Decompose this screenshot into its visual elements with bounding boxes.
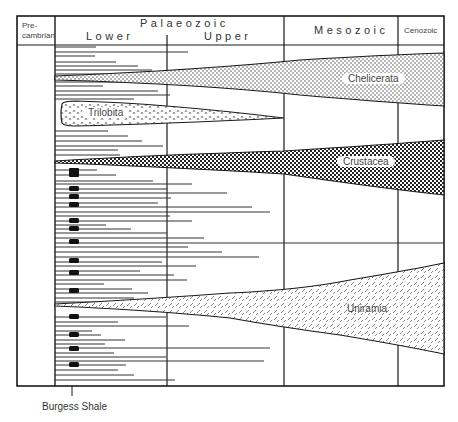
- upper-header: Upper: [204, 30, 251, 42]
- precambrian-header: Pre- cambrian: [22, 21, 55, 41]
- precambrian-line2: cambrian: [22, 31, 55, 41]
- crustacea-label: Crustacea: [337, 156, 395, 167]
- chelicerata-label: Chelicerata: [342, 73, 405, 84]
- burgess-markers: [69, 168, 79, 367]
- uniramia-label: Uniramia: [341, 303, 393, 314]
- crustacea-spindle: [55, 140, 444, 195]
- mesozoic-header: Mesozoic: [314, 24, 388, 36]
- precambrian-line1: Pre-: [22, 21, 55, 31]
- lower-header: Lower: [86, 30, 133, 42]
- phylogeny-diagram: [0, 0, 458, 422]
- cenozoic-header: Cenozoic: [404, 26, 437, 36]
- trilobita-label: Trilobita: [82, 107, 129, 118]
- palaeozoic-header: Palaeozoic: [140, 17, 229, 29]
- burgess-shale-label: Burgess Shale: [42, 401, 107, 412]
